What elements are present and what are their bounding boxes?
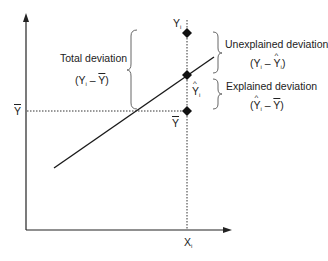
mean-point-label: Y <box>172 117 179 129</box>
total-deviation-title: Total deviation <box>60 52 127 64</box>
sym-x: X <box>184 236 191 248</box>
sym-y: Y <box>254 57 261 69</box>
unexplained-deviation-title: Unexplained deviation <box>225 38 328 50</box>
minus: – <box>262 99 273 111</box>
explained-brace-icon <box>213 79 222 109</box>
sym-yhat: Y <box>274 57 281 69</box>
sub-i: i <box>191 243 192 249</box>
sym-y: Y <box>79 74 86 86</box>
y-mean-axis-label: Y <box>14 105 21 117</box>
sym-yhat: Y <box>254 99 261 111</box>
sym-ybar: Y <box>273 99 280 111</box>
sym-y: Y <box>173 17 180 29</box>
sub-i: i <box>180 24 181 30</box>
unexplained-brace-icon <box>213 32 222 73</box>
total-deviation-formula: (Yi – Y) <box>75 74 109 90</box>
unexplained-deviation-formula: (Yi – Yi) <box>250 57 285 73</box>
sym-ybar: Y <box>172 117 179 129</box>
sub-i: i <box>199 92 200 98</box>
predicted-label: Yi <box>192 85 200 101</box>
minus: – <box>87 74 98 86</box>
total-brace-icon <box>127 30 137 109</box>
x-axis-arrow-icon <box>223 227 232 233</box>
y-axis-arrow-icon <box>23 13 29 22</box>
sym-ybar: Y <box>14 105 21 117</box>
explained-deviation-formula: (Yi – Y) <box>250 99 284 115</box>
sym-yhat: Y <box>192 85 199 97</box>
observed-label: Yi <box>173 17 181 33</box>
sub-i: i <box>281 64 282 70</box>
explained-deviation-title: Explained deviation <box>226 80 317 92</box>
observed-point-icon <box>182 28 192 38</box>
mean-point-icon <box>182 106 192 116</box>
minus: – <box>262 57 274 69</box>
sym-ybar: Y <box>98 74 105 86</box>
x-axis-label: Xi <box>184 236 192 252</box>
